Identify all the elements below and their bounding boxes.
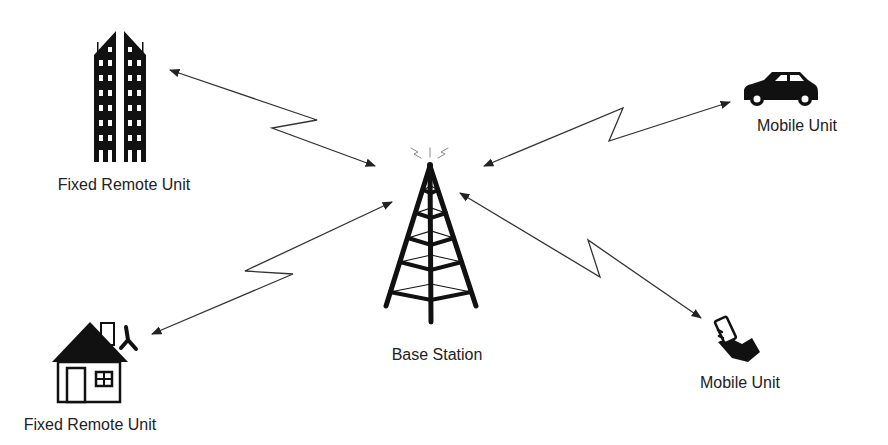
link-tower-car <box>484 102 730 166</box>
link-tower-phone <box>460 193 701 318</box>
label-mobile-unit-car: Mobile Unit <box>757 117 837 135</box>
link-tower-house <box>152 202 392 334</box>
label-base-station: Base Station <box>392 346 483 364</box>
link-tower-building <box>170 70 375 166</box>
office-building-icon <box>94 31 146 162</box>
car-icon <box>744 72 818 106</box>
radio-tower-icon <box>386 148 476 322</box>
hand-phone-icon <box>714 316 760 362</box>
label-mobile-unit-phone: Mobile Unit <box>700 374 780 392</box>
label-fixed-remote-unit-building: Fixed Remote Unit <box>58 176 191 194</box>
house-icon <box>52 322 136 402</box>
label-fixed-remote-unit-house: Fixed Remote Unit <box>24 416 157 434</box>
